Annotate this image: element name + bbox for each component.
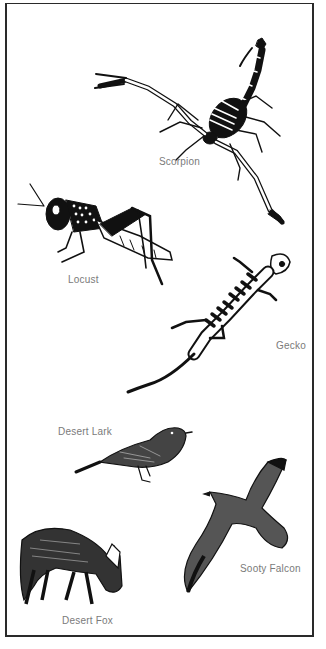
label-desert-fox: Desert Fox (62, 615, 113, 626)
desert-fox-drawing (20, 528, 122, 604)
locust-drawing (18, 184, 172, 284)
label-gecko: Gecko (276, 340, 306, 351)
label-locust: Locust (68, 274, 99, 285)
desert-fauna-illustration (0, 0, 326, 649)
scorpion-drawing (95, 38, 284, 224)
label-sooty-falcon: Sooty Falcon (240, 563, 301, 574)
label-desert-lark: Desert Lark (58, 426, 112, 437)
gecko-drawing (128, 254, 290, 392)
label-scorpion: Scorpion (159, 156, 200, 167)
